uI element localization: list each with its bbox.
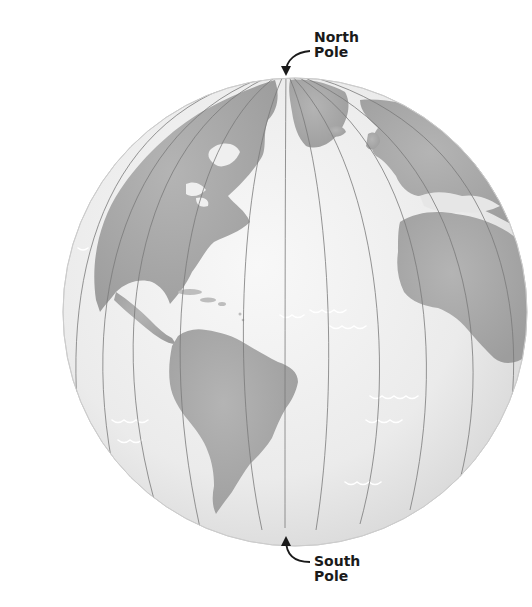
south-pole-label: South Pole xyxy=(314,554,360,584)
north-pole-label-line2: Pole xyxy=(314,45,359,60)
south-pole-label-line1: South xyxy=(314,554,360,569)
globe-diagram xyxy=(0,0,532,607)
north-pole-label: North Pole xyxy=(314,30,359,60)
north-pole-label-line1: North xyxy=(314,30,359,45)
north-pole-arrow-icon xyxy=(281,51,310,76)
south-pole-label-line2: Pole xyxy=(314,569,360,584)
